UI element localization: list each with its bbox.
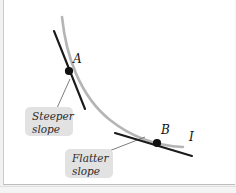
point-b-marker bbox=[153, 139, 161, 147]
leader-line-steeper bbox=[57, 79, 70, 108]
point-b-label: B bbox=[161, 124, 170, 136]
figure-drawing bbox=[0, 0, 236, 193]
callout-flatter-slope: Flatter slope bbox=[65, 149, 113, 178]
point-a-label: A bbox=[73, 53, 82, 65]
callout-steeper-slope: Steeper slope bbox=[25, 107, 73, 136]
point-a-marker bbox=[65, 67, 73, 75]
figure-container: A B I Steeper slope Flatter slope bbox=[0, 0, 236, 193]
curve-label-i: I bbox=[189, 131, 194, 143]
